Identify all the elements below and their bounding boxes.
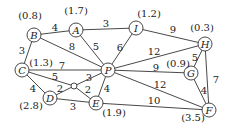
node-value-label: (1.9) xyxy=(102,107,126,118)
node-label: E xyxy=(91,98,100,109)
node-P: P xyxy=(101,63,115,77)
node-label: B xyxy=(29,30,37,41)
edge-weight-label: 4 xyxy=(52,22,58,33)
edge-weight-label: 3 xyxy=(86,72,92,83)
edge-weight-label: 9 xyxy=(153,62,159,73)
node-label: C xyxy=(18,65,26,76)
edge-weight-label: 3 xyxy=(103,18,109,29)
edge-weight-label: 2 xyxy=(85,84,91,95)
edge-weight-label: 7 xyxy=(59,60,65,71)
edge-weight-label: 2 xyxy=(57,83,63,94)
edge-weight-label: 4 xyxy=(104,83,110,94)
edge-weight-label: 5 xyxy=(192,52,198,63)
node-value-label: (1.7) xyxy=(64,5,88,16)
edge-weight-label: 5 xyxy=(93,41,99,52)
edge-P-G xyxy=(108,70,191,73)
node-E: E(1.9) xyxy=(89,96,126,118)
node-value-label: (3.5) xyxy=(181,112,205,123)
node-value-label: (1.2) xyxy=(137,8,161,19)
node-label: H xyxy=(200,39,210,50)
weighted-graph-diagram: 4393856753422341291210574 A(1.7)B(0.8)C(… xyxy=(0,0,233,132)
edge-weight-label: 3 xyxy=(70,101,76,112)
node-value-label: (2.8) xyxy=(19,100,43,111)
edge-weight-label: 7 xyxy=(213,74,219,85)
node-value-label: (0.3) xyxy=(190,22,214,33)
edge-weight-label: 4 xyxy=(201,85,207,96)
node-label: G xyxy=(187,68,195,79)
node-value-label: (0.9) xyxy=(166,58,190,69)
edge-weight-label: 9 xyxy=(170,24,176,35)
node-B: B(0.8) xyxy=(18,10,42,43)
node-I: I(1.2) xyxy=(129,8,161,36)
node-junction xyxy=(71,83,77,89)
node-circle xyxy=(71,83,77,89)
node-D: D(2.8) xyxy=(19,91,57,111)
edge-weight-label: 5 xyxy=(52,71,58,82)
edge-H-F xyxy=(205,44,209,110)
node-value-label: (0.8) xyxy=(18,10,42,21)
node-label: D xyxy=(45,93,54,104)
nodes-layer: A(1.7)B(0.8)C(1.3)D(2.8)E(1.9)PI(1.2)H(0… xyxy=(15,5,216,123)
edge-weight-label: 10 xyxy=(148,95,161,106)
edge-weight-label: 12 xyxy=(154,79,167,90)
edge-weight-label: 3 xyxy=(19,45,25,56)
node-value-label: (1.3) xyxy=(29,57,53,68)
node-label: A xyxy=(71,25,79,36)
node-label: F xyxy=(205,105,214,116)
edge-weight-label: 12 xyxy=(148,46,161,57)
edge-weight-label: 6 xyxy=(117,42,123,53)
edge-weight-label: 4 xyxy=(30,83,36,94)
node-label: P xyxy=(104,65,112,76)
edge-weight-label: 8 xyxy=(69,41,75,52)
node-A: A(1.7) xyxy=(64,5,88,38)
